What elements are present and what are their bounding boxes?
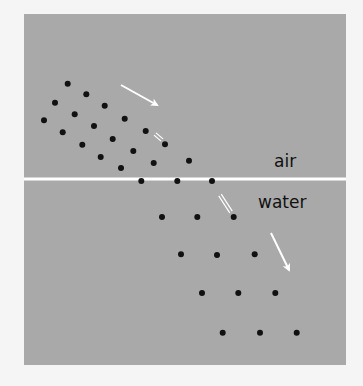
- wavefront-dot: [65, 81, 71, 87]
- wavefront-dot: [209, 178, 215, 184]
- wavefront-dot: [186, 158, 192, 164]
- air-label: air: [274, 151, 296, 171]
- wavefront-dot: [110, 136, 116, 142]
- wavefront-dot: [294, 330, 300, 336]
- refraction-diagram: air water: [0, 0, 363, 386]
- wavefront-dot: [162, 141, 168, 147]
- wavefront-dot: [122, 116, 128, 122]
- wavefront-dot: [72, 111, 78, 117]
- wavefront-dot: [199, 290, 205, 296]
- wavefront-dot: [102, 103, 108, 109]
- wavefront-dot: [118, 165, 124, 171]
- wavefront-dot: [174, 178, 180, 184]
- wavefront-dot: [194, 214, 200, 220]
- diagram-panel: [24, 14, 346, 365]
- wavefront-dot: [138, 178, 144, 184]
- wavefront-dot: [52, 100, 58, 106]
- wavefront-dot: [151, 160, 157, 166]
- wavefront-dot: [178, 251, 184, 257]
- water-label: water: [258, 192, 306, 212]
- wavefront-dot: [214, 252, 220, 258]
- wavefront-dot: [83, 91, 89, 97]
- wavefront-dot: [252, 251, 258, 257]
- wavefront-dot: [257, 330, 263, 336]
- wavefront-dot: [159, 214, 165, 220]
- wavefront-dot: [98, 154, 104, 160]
- wavefront-dot: [220, 330, 226, 336]
- wavefront-dot: [143, 128, 149, 134]
- wavefront-dot: [91, 123, 97, 129]
- wavefront-dot: [130, 148, 136, 154]
- wavefront-dot: [79, 142, 85, 148]
- wavefront-dot: [272, 290, 278, 296]
- wavefront-dot: [41, 117, 47, 123]
- wavefront-dot: [231, 214, 237, 220]
- wavefront-dot: [235, 290, 241, 296]
- wavefront-dot: [60, 129, 66, 135]
